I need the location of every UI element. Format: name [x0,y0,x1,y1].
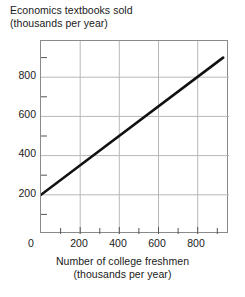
x-tick-label-400: 400 [98,237,138,249]
horizontal-gridlines [41,77,229,195]
y-tick-label-600: 600 [2,109,36,120]
x-tick-label-600: 600 [137,237,177,249]
y-axis-tick-labels: 800 600 400 200 [0,0,36,297]
plot-canvas [41,41,229,234]
y-tick-label-400: 400 [2,148,36,159]
y-tick-label-200: 200 [2,188,36,199]
x-axis-tick-labels: 0 200 400 600 800 [0,237,245,251]
plot-area [40,40,228,233]
x-axis-label-line-2: (thousands per year) [0,268,245,281]
chart-figure: Economics textbooks sold (thousands per … [0,0,245,297]
x-tick-label-800: 800 [176,237,216,249]
x-axis-label-line-1: Number of college freshmen [0,255,245,268]
vertical-gridlines [80,41,198,234]
x-minor-ticks [61,228,218,234]
x-tick-label-0: 0 [11,237,51,249]
x-tick-label-200: 200 [59,237,99,249]
data-line-series-1 [41,58,223,195]
x-axis-label: Number of college freshmen (thousands pe… [0,255,245,281]
y-tick-label-800: 800 [2,70,36,81]
